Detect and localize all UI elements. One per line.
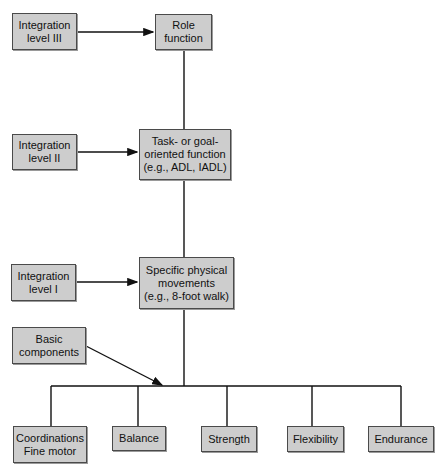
basic-components-box: Basic components: [12, 327, 86, 364]
role-function-box: Role function: [155, 14, 212, 50]
arrow-basic: [86, 346, 162, 385]
integration-level-2-box: Integration level II: [12, 134, 77, 170]
integration-level-1-box: Integration level I: [11, 264, 76, 301]
component-flexibility-box: Flexibility: [287, 426, 344, 452]
component-strength-box: Strength: [201, 426, 257, 452]
connector-lines: [0, 0, 441, 466]
component-coordination-box: Coordinations Fine motor: [13, 426, 87, 463]
integration-level-3-box: Integration level III: [12, 13, 77, 50]
component-balance-box: Balance: [112, 426, 166, 451]
task-function-box: Task- or goal- oriented function (e.g., …: [139, 129, 231, 180]
component-endurance-box: Endurance: [368, 426, 434, 452]
specific-movements-box: Specific physical movements (e.g., 8-foo…: [139, 257, 234, 309]
